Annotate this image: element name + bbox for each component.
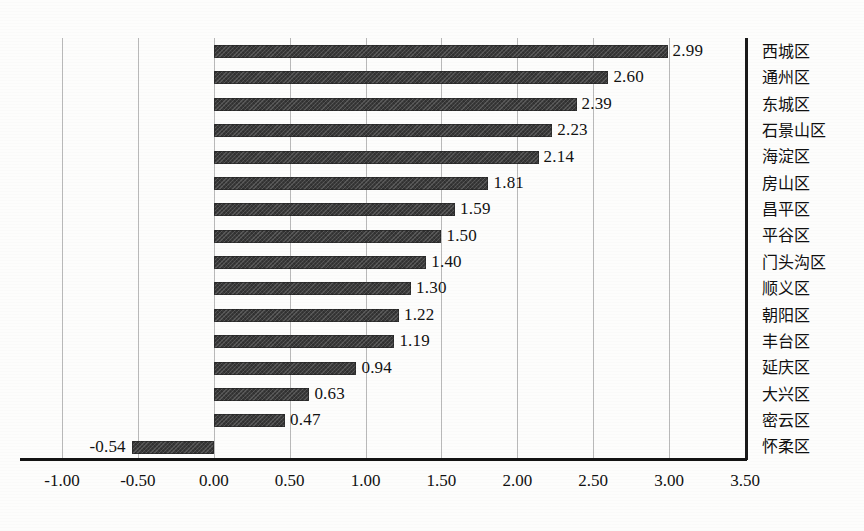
category-label: 石景山区 (762, 117, 826, 145)
x-tick-label: -0.50 (120, 470, 155, 492)
x-tick-label: 3.00 (654, 470, 684, 492)
category-label: 朝阳区 (762, 302, 810, 330)
x-tick-label: 2.50 (578, 470, 608, 492)
bar[interactable] (214, 98, 577, 111)
x-tick-label: 1.50 (427, 470, 457, 492)
bar[interactable] (214, 71, 609, 84)
bar[interactable] (214, 45, 668, 58)
bar-row: 0.94 (62, 355, 745, 383)
bar-value-label: 2.60 (613, 66, 644, 87)
bar-value-label: 0.94 (361, 357, 392, 378)
bar-row: 1.59 (62, 196, 745, 224)
bar-row: 0.47 (62, 407, 745, 435)
bar-value-label: 2.14 (544, 146, 575, 167)
bar-value-label: 0.63 (314, 383, 345, 404)
x-tick-label: 0.50 (275, 470, 305, 492)
category-label: 昌平区 (762, 196, 810, 224)
x-tick-label: 2.00 (502, 470, 532, 492)
bar[interactable] (214, 203, 455, 216)
bar[interactable] (214, 151, 539, 164)
bar-value-label: -0.54 (89, 436, 125, 457)
bar-row: 2.23 (62, 117, 745, 145)
bar-value-label: 0.47 (290, 409, 321, 430)
x-tick-label: 0.00 (199, 470, 229, 492)
category-label: 丰台区 (762, 328, 810, 356)
plot-right-axis (745, 38, 748, 460)
bar-value-label: 2.39 (582, 93, 613, 114)
category-label: 延庆区 (762, 355, 810, 383)
bar-value-label: 1.59 (460, 198, 491, 219)
bar-row: 1.50 (62, 223, 745, 251)
bar-value-label: 1.22 (404, 304, 435, 325)
category-label: 西城区 (762, 38, 810, 66)
bar-value-label: 1.50 (446, 225, 477, 246)
bar-row: 1.40 (62, 249, 745, 277)
bar[interactable] (214, 177, 489, 190)
x-axis-tick-labels: -1.00-0.500.000.501.001.502.002.503.003.… (0, 470, 864, 500)
category-label: 通州区 (762, 64, 810, 92)
bar[interactable] (214, 362, 357, 375)
bar-row: 2.99 (62, 38, 745, 66)
bar[interactable] (214, 414, 285, 427)
bar-value-label: 1.81 (493, 172, 524, 193)
category-label: 海淀区 (762, 144, 810, 172)
bar-value-label: 1.40 (431, 251, 462, 272)
bar[interactable] (132, 441, 214, 454)
bar-row: 0.63 (62, 381, 745, 409)
x-tick-label: 3.50 (730, 470, 760, 492)
bar-row: 1.81 (62, 170, 745, 198)
category-label: 密云区 (762, 407, 810, 435)
bar[interactable] (214, 335, 395, 348)
category-label: 大兴区 (762, 381, 810, 409)
bar-row: 2.60 (62, 64, 745, 92)
category-label: 房山区 (762, 170, 810, 198)
bar-value-label: 2.23 (557, 119, 588, 140)
bar-value-label: 1.19 (399, 330, 430, 351)
x-axis-line (20, 458, 747, 461)
bar-value-label: 2.99 (673, 40, 704, 61)
category-label: 东城区 (762, 91, 810, 119)
x-tick-label: 1.00 (351, 470, 381, 492)
bar[interactable] (214, 256, 426, 269)
bar[interactable] (214, 230, 442, 243)
plot-area: 2.992.602.392.232.141.811.591.501.401.30… (62, 38, 745, 460)
category-label: 怀柔区 (762, 434, 810, 462)
category-label: 顺义区 (762, 275, 810, 303)
bar-row: 2.39 (62, 91, 745, 119)
bar[interactable] (214, 309, 399, 322)
bar[interactable] (214, 388, 310, 401)
category-label: 平谷区 (762, 223, 810, 251)
category-label: 门头沟区 (762, 249, 826, 277)
bar[interactable] (214, 282, 411, 295)
bar-value-label: 1.30 (416, 277, 447, 298)
bar-row: 1.30 (62, 275, 745, 303)
bar-chart: 2.992.602.392.232.141.811.591.501.401.30… (0, 0, 864, 531)
x-tick-label: -1.00 (44, 470, 79, 492)
bar-row: 2.14 (62, 144, 745, 172)
category-axis: 西城区通州区东城区石景山区海淀区房山区昌平区平谷区门头沟区顺义区朝阳区丰台区延庆… (752, 38, 864, 460)
bar[interactable] (214, 124, 552, 137)
bar-row: 1.22 (62, 302, 745, 330)
bar-row: 1.19 (62, 328, 745, 356)
